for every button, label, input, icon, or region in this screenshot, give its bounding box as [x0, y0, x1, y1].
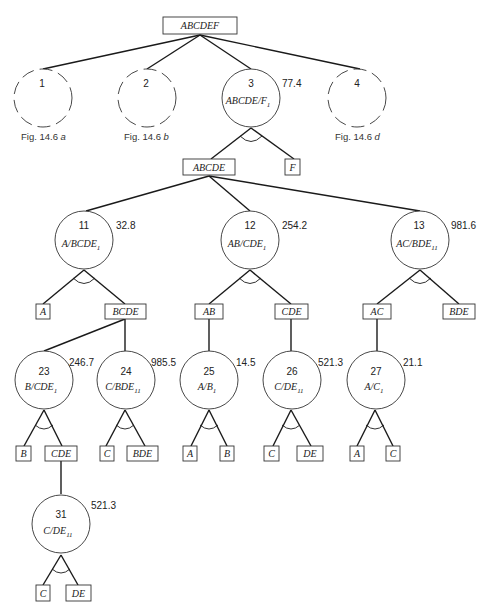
- svg-text:A: A: [39, 306, 47, 317]
- leaf-f[interactable]: F: [285, 159, 300, 175]
- leaf-cde[interactable]: CDE: [275, 304, 308, 319]
- node-11[interactable]: 11 A/BCDE1 32.8: [55, 211, 136, 269]
- node-23[interactable]: 23 B/CDE1 246.7: [15, 351, 94, 409]
- leaf-bde[interactable]: BDE: [443, 304, 475, 319]
- node-3[interactable]: 3 ABCDE/F1 77.4: [222, 69, 302, 127]
- node-25[interactable]: 25 A/B1 14.5: [180, 351, 256, 409]
- and-arc-26: [282, 425, 300, 429]
- leaf-26-c[interactable]: C: [264, 446, 279, 461]
- node-1[interactable]: 1 Fig. 14.6 a: [14, 69, 72, 142]
- svg-text:12: 12: [244, 220, 256, 231]
- svg-text:AC: AC: [370, 306, 384, 317]
- node-24[interactable]: 24 C/BDE11 985.5: [97, 351, 176, 409]
- svg-text:A: A: [186, 448, 194, 459]
- leaf-a[interactable]: A: [36, 304, 50, 319]
- leaf-31-de[interactable]: DE: [66, 585, 91, 601]
- edge-24-c: [106, 410, 125, 446]
- edge-13-bde: [420, 270, 459, 304]
- edge-25-b: [209, 410, 227, 446]
- edge-26-de: [291, 410, 311, 446]
- leaf-23-cde[interactable]: CDE: [45, 446, 77, 461]
- node-cost: 77.4: [282, 78, 302, 89]
- svg-text:AB: AB: [202, 306, 215, 317]
- leaf-24-bde[interactable]: BDE: [127, 446, 158, 461]
- leaf-27-a[interactable]: A: [350, 446, 364, 461]
- node-id: 2: [143, 78, 149, 89]
- svg-text:27: 27: [370, 366, 382, 377]
- and-arc-13: [409, 278, 431, 284]
- svg-text:DE: DE: [71, 588, 85, 599]
- leaf-31-c[interactable]: C: [36, 585, 50, 601]
- edge-12-cde: [250, 270, 291, 304]
- edge-3-f: [251, 128, 294, 159]
- edge-abcde-13: [209, 176, 420, 211]
- and-arc-31: [52, 569, 70, 573]
- edge-13-ac: [377, 270, 420, 304]
- node-27[interactable]: 27 A/C1 21.1: [347, 351, 423, 409]
- leaf-ac[interactable]: AC: [363, 304, 391, 319]
- and-arc-11: [73, 278, 95, 284]
- node-13[interactable]: 13 AC/BDE11 981.6: [391, 211, 476, 269]
- leaf-ab[interactable]: AB: [195, 304, 223, 319]
- edge-31-c: [43, 555, 61, 585]
- svg-text:B: B: [224, 448, 230, 459]
- node-cost: 21.1: [403, 357, 423, 368]
- node-id: 3: [248, 78, 254, 89]
- node-31[interactable]: 31 C/DE11 521.3: [32, 495, 116, 553]
- leaf-bcde[interactable]: BCDE: [105, 304, 146, 319]
- svg-text:BCDE: BCDE: [112, 306, 138, 317]
- edge-11-bcde: [84, 270, 125, 304]
- svg-text:23: 23: [38, 366, 50, 377]
- leaf-24-c[interactable]: C: [100, 446, 114, 461]
- svg-text:11: 11: [79, 220, 90, 231]
- node-2[interactable]: 2 Fig. 14.6 b: [118, 69, 176, 142]
- svg-text:BDE: BDE: [133, 448, 152, 459]
- figure-reference: Fig. 14.6 d: [335, 131, 381, 142]
- edge-25-a: [191, 410, 209, 446]
- leaf-27-c[interactable]: C: [386, 446, 400, 461]
- root-label: ABCDEF: [180, 20, 220, 31]
- node-cost: 32.8: [116, 220, 136, 231]
- edge-24-bde: [125, 410, 145, 446]
- svg-text:25: 25: [203, 366, 215, 377]
- leaf-abcde[interactable]: ABCDE: [183, 159, 235, 175]
- svg-text:B: B: [20, 448, 26, 459]
- svg-text:F: F: [288, 162, 296, 173]
- leaf-23-b[interactable]: B: [16, 446, 31, 461]
- edge-3-abcde: [211, 128, 251, 159]
- svg-text:C: C: [104, 448, 111, 459]
- svg-text:DE: DE: [302, 448, 316, 459]
- and-arc-27: [366, 425, 384, 429]
- edge-11-a: [43, 270, 84, 304]
- edge-23-b: [24, 410, 44, 446]
- node-26[interactable]: 26 C/DE11 521.3: [263, 351, 343, 409]
- svg-text:C: C: [390, 448, 397, 459]
- edge-root-4: [200, 35, 360, 69]
- svg-text:C: C: [40, 588, 47, 599]
- svg-text:ABCDE: ABCDE: [192, 162, 225, 173]
- leaf-25-a[interactable]: A: [183, 446, 197, 461]
- node-cost: 254.2: [282, 220, 307, 231]
- node-12[interactable]: 12 AB/CDE1 254.2: [221, 211, 307, 269]
- root-node[interactable]: ABCDEF: [163, 17, 237, 34]
- svg-text:BDE: BDE: [449, 306, 468, 317]
- edge-27-a: [357, 410, 375, 446]
- node-4[interactable]: 4 Fig. 14.6 d: [328, 69, 386, 142]
- svg-text:C: C: [268, 448, 275, 459]
- leaf-25-b[interactable]: B: [220, 446, 234, 461]
- edge-23-cde: [44, 410, 62, 446]
- node-cost: 521.3: [318, 357, 343, 368]
- edge-root-1: [43, 35, 200, 69]
- svg-text:31: 31: [55, 509, 67, 520]
- node-cost: 521.3: [91, 500, 116, 511]
- leaf-26-de[interactable]: DE: [297, 446, 323, 461]
- and-arc-23: [35, 425, 53, 429]
- edge-26-c: [273, 410, 291, 446]
- and-arc-3: [240, 136, 262, 142]
- node-cost: 981.6: [451, 220, 476, 231]
- svg-text:CDE: CDE: [51, 448, 71, 459]
- and-arc-24: [116, 425, 134, 429]
- node-id: 1: [39, 78, 45, 89]
- and-arc-25: [200, 425, 218, 429]
- svg-text:A: A: [353, 448, 361, 459]
